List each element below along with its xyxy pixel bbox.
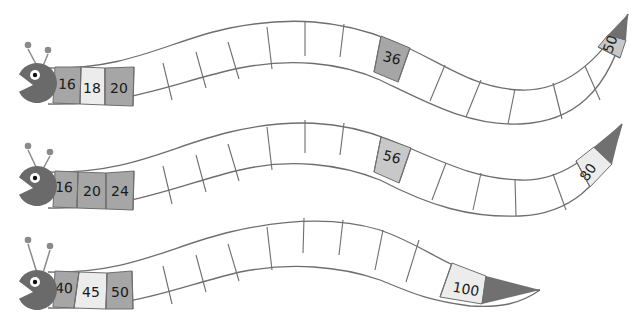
pupil: [33, 176, 37, 180]
number-cell: 20: [105, 67, 134, 106]
cell-number: 50: [111, 284, 129, 300]
cell-number: 45: [82, 284, 100, 300]
antenna-tip-icon: [25, 42, 32, 49]
number-cell: 45: [74, 272, 107, 309]
worksheet-canvas: 16182036501620245680404550100: [0, 0, 635, 323]
segment-divider: [228, 42, 239, 79]
caterpillar-head: [19, 143, 57, 206]
head-shape: [19, 63, 57, 103]
antenna-tip-icon: [45, 47, 52, 54]
number-cell: 16: [53, 67, 81, 104]
segment-divider: [466, 80, 481, 117]
number-cell: 20: [77, 172, 106, 209]
tail-tip: [482, 276, 540, 304]
cell-number: 20: [83, 183, 101, 199]
segment-divider: [430, 65, 445, 101]
segment-divider: [303, 218, 304, 253]
cell-number: 18: [83, 80, 101, 96]
segment-divider: [267, 27, 272, 69]
caterpillar-number-sequences: 16182036501620245680404550100: [0, 0, 635, 323]
segment-divider: [228, 244, 239, 281]
segment-divider: [196, 155, 206, 192]
segment-divider: [585, 66, 600, 100]
segment-divider: [515, 180, 516, 216]
segment-divider: [163, 266, 172, 304]
segment-divider: [163, 166, 172, 204]
body-bottom-edge: [48, 124, 622, 216]
segment-divider: [196, 52, 206, 88]
caterpillar-2: 1620245680: [19, 120, 622, 216]
segment-divider: [163, 63, 172, 100]
number-cell: 18: [80, 67, 105, 105]
segment-divider: [196, 255, 206, 292]
antenna-tip-icon: [47, 243, 54, 250]
antenna-tip-icon: [25, 237, 32, 244]
antenna-stalk: [43, 250, 50, 273]
caterpillar-head: [19, 237, 57, 310]
caterpillar-1: 1618203650: [19, 14, 628, 124]
segment-divider: [553, 174, 566, 210]
segment-divider: [340, 24, 344, 57]
segment-divider: [375, 230, 383, 270]
number-cell: 100: [440, 263, 486, 304]
segment-divider: [508, 89, 515, 124]
head-shape: [19, 270, 57, 310]
cell-number: 40: [55, 280, 73, 297]
antenna-tip-icon: [25, 143, 32, 150]
cell-number: 20: [110, 80, 128, 96]
body-bottom-edge: [48, 14, 628, 124]
antenna-tip-icon: [47, 149, 54, 156]
cell-number: 24: [111, 183, 129, 199]
antenna-stalk: [28, 244, 37, 273]
segment-divider: [432, 163, 446, 200]
segment-divider: [473, 173, 481, 210]
cell-number: 16: [58, 76, 76, 93]
segment-divider: [553, 83, 562, 119]
pupil: [33, 73, 37, 77]
segment-divider: [228, 144, 239, 181]
number-cell: 16: [53, 171, 78, 208]
antenna-stalk: [43, 156, 50, 169]
segment-divider: [339, 220, 343, 255]
segment-divider: [267, 127, 272, 170]
number-cell: 50: [106, 271, 133, 309]
cell-number: 16: [55, 179, 73, 196]
body-top-edge: [48, 14, 628, 90]
caterpillar-3: 404550100: [19, 218, 540, 310]
segment-divider: [406, 240, 419, 282]
pupil: [33, 280, 37, 284]
segment-divider: [340, 123, 344, 155]
number-cell: 24: [106, 171, 134, 210]
segment-divider: [267, 227, 272, 270]
caterpillar-head: [19, 42, 57, 103]
